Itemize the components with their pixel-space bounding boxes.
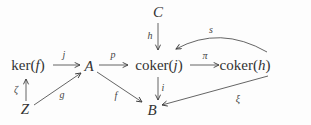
- node-ker-f: ker(f): [11, 58, 44, 73]
- commutative-diagram: C ker(f) A coker(j) coker(h) Z B j p π h…: [0, 0, 311, 125]
- node-Z: Z: [21, 102, 29, 117]
- node-B: B: [147, 103, 156, 118]
- node-coker-j: coker(j): [135, 58, 182, 73]
- arrow-xi-label: ξ: [236, 94, 240, 104]
- arrow-h-label: h: [148, 31, 153, 41]
- arrow-i-label: i: [162, 83, 165, 93]
- arrow-f-label: f: [115, 91, 118, 101]
- arrow-s: [176, 38, 267, 52]
- arrow-f: [97, 72, 142, 102]
- node-coker-j-prefix: coker(: [135, 57, 173, 73]
- arrow-zeta-label: ζ: [14, 85, 18, 95]
- arrow-xi: [162, 76, 268, 105]
- node-ker-f-prefix: ker(: [11, 57, 35, 73]
- arrow-p-label: p: [111, 50, 116, 60]
- arrow-s-label: s: [209, 25, 213, 35]
- arrow-g-label: g: [60, 90, 65, 100]
- node-coker-h-prefix: coker(: [220, 57, 258, 73]
- arrow-pi-label: π: [202, 51, 207, 61]
- node-C: C: [153, 5, 163, 20]
- node-coker-h: coker(h): [220, 58, 271, 73]
- node-A: A: [84, 59, 93, 74]
- node-coker-h-suffix: ): [265, 57, 270, 73]
- node-ker-f-suffix: ): [40, 57, 45, 73]
- arrow-g: [34, 73, 81, 105]
- node-coker-h-var: h: [258, 57, 266, 73]
- arrow-j-label: j: [63, 50, 66, 60]
- node-coker-j-suffix: ): [178, 57, 183, 73]
